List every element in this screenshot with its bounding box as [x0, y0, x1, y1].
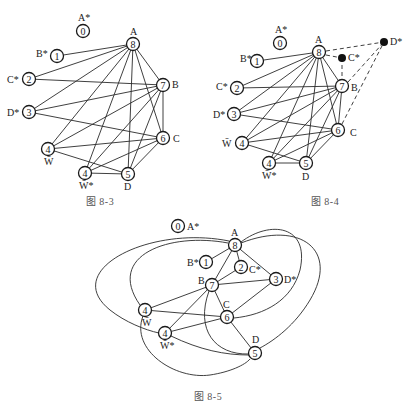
svg-text:C*: C* — [216, 81, 228, 92]
svg-text:1: 1 — [55, 51, 60, 62]
fig-8-3-node-W-bar-star: 4 W̄* — [79, 167, 94, 192]
fig-8-3-node-B-star: 1 B* — [36, 48, 64, 63]
svg-text:B*: B* — [36, 48, 48, 59]
fig-8-3-node-D-star: 3 D* — [7, 106, 36, 119]
svg-text:4: 4 — [163, 328, 168, 339]
figure-8-4: 0 A* 1 B* 2 C* 3 D* 8 A 7 B — [213, 24, 402, 207]
svg-text:0: 0 — [81, 26, 86, 37]
svg-text:6: 6 — [225, 312, 230, 323]
svg-text:B*: B* — [187, 257, 199, 268]
fig-8-4-point-D-star-black: D* — [380, 36, 402, 47]
svg-text:W̄: W̄ — [44, 156, 54, 167]
fig-8-3-node-C: 6 C — [157, 132, 181, 145]
figure-8-3: 0 A* 1 B* 2 C* 3 D* 8 A 7 B — [7, 12, 180, 207]
svg-text:4: 4 — [143, 305, 148, 316]
svg-text:6: 6 — [161, 133, 166, 144]
fig-8-4-node-W-bar-star: 4 W̄* — [262, 157, 276, 182]
svg-text:B: B — [172, 79, 179, 90]
svg-text:D: D — [124, 181, 131, 192]
svg-text:3: 3 — [27, 107, 32, 118]
graph-figures-canvas: 0 A* 1 B* 2 C* 3 D* 8 A 7 B — [0, 0, 411, 410]
svg-text:A: A — [231, 227, 239, 238]
svg-text:W̄*: W̄* — [79, 180, 93, 191]
fig-8-3-caption: 图 8-3 — [86, 196, 114, 207]
svg-text:C: C — [223, 299, 230, 310]
svg-text:A*: A* — [275, 24, 287, 35]
svg-text:0: 0 — [278, 38, 283, 49]
svg-text:2: 2 — [27, 74, 32, 85]
fig-8-4-node-B-star: 1 B* — [240, 53, 264, 68]
svg-text:B: B — [351, 82, 358, 93]
fig-8-5-edges — [96, 229, 321, 375]
svg-text:1: 1 — [204, 257, 209, 268]
fig-8-4-edges — [234, 52, 342, 163]
svg-text:A*: A* — [187, 221, 199, 232]
svg-text:A*: A* — [78, 12, 90, 23]
svg-text:C*: C* — [348, 52, 360, 63]
svg-text:C*: C* — [249, 264, 261, 275]
fig-8-4-caption: 图 8-4 — [311, 196, 339, 207]
fig-8-4-node-D: 5 D — [300, 157, 313, 183]
svg-text:8: 8 — [131, 39, 136, 50]
fig-8-5-node-B-star: 1 B* — [187, 256, 213, 269]
svg-text:5: 5 — [126, 169, 131, 180]
svg-text:W̄*: W̄* — [160, 340, 174, 351]
fig-8-3-node-D: 5 D — [122, 168, 135, 193]
svg-text:C: C — [350, 127, 357, 138]
fig-8-4-node-D-star: 3 D* — [213, 108, 241, 121]
svg-text:7: 7 — [161, 80, 166, 91]
fig-8-4-node-A-star: 0 A* — [274, 24, 288, 50]
svg-text:W̄: W̄ — [142, 317, 152, 328]
svg-text:0: 0 — [176, 221, 181, 232]
svg-text:7: 7 — [210, 280, 215, 291]
svg-text:4: 4 — [83, 168, 88, 179]
svg-text:D: D — [302, 171, 309, 182]
svg-text:C*: C* — [7, 74, 19, 85]
svg-text:W̄: W̄ — [222, 138, 232, 149]
svg-text:4: 4 — [46, 144, 51, 155]
svg-text:2: 2 — [239, 262, 244, 273]
fig-8-3-node-B: 7 B — [157, 79, 180, 92]
svg-text:5: 5 — [253, 348, 258, 359]
svg-text:1: 1 — [255, 56, 260, 67]
svg-text:B: B — [198, 275, 205, 286]
fig-8-4-point-C-star-black: C* — [338, 52, 360, 63]
fig-8-5-node-A-star: 0 A* — [172, 220, 200, 233]
fig-8-4-node-W-bar: 4 W̄ — [222, 137, 249, 150]
svg-text:3: 3 — [232, 109, 237, 120]
fig-8-5-node-D-star: 3 D* — [270, 273, 297, 286]
svg-text:2: 2 — [235, 83, 240, 94]
fig-8-3-node-A: 8 A — [127, 26, 140, 51]
svg-text:C: C — [173, 133, 180, 144]
figure-8-5: 0 A* 8 A 1 B* 2 C* 7 B 3 D* — [96, 220, 321, 403]
fig-8-4-node-C-star: 2 C* — [216, 81, 244, 95]
fig-8-5-node-A: 8 A — [229, 227, 242, 252]
svg-text:D*: D* — [284, 274, 296, 285]
fig-8-5-node-C: 6 C — [221, 299, 234, 324]
svg-text:A: A — [130, 26, 138, 37]
svg-text:D*: D* — [7, 107, 19, 118]
svg-text:8: 8 — [233, 240, 238, 251]
svg-text:3: 3 — [274, 274, 279, 285]
fig-8-5-node-W-bar-star: 4 W̄* — [159, 327, 175, 352]
svg-text:5: 5 — [304, 158, 309, 169]
svg-text:W̄*: W̄* — [262, 170, 276, 181]
fig-8-3-node-W-bar: 4 W̄ — [42, 143, 55, 168]
svg-text:D*: D* — [213, 109, 225, 120]
svg-text:4: 4 — [240, 138, 245, 149]
svg-text:D: D — [252, 334, 259, 345]
svg-text:8: 8 — [317, 47, 322, 58]
svg-text:4: 4 — [267, 158, 272, 169]
svg-text:D*: D* — [390, 36, 402, 47]
fig-8-3-node-A-star: 0 A* — [77, 12, 91, 38]
fig-8-4-node-A: 8 A — [313, 34, 326, 59]
svg-text:6: 6 — [336, 125, 341, 136]
fig-8-5-caption: 图 8-5 — [194, 391, 222, 402]
svg-text:B*: B* — [240, 53, 252, 64]
fig-8-4-node-B: 7 B — [336, 80, 359, 94]
svg-text:A: A — [315, 34, 323, 45]
fig-8-4-node-C: 6 C — [332, 124, 358, 139]
fig-8-3-node-C-star: 2 C* — [7, 73, 36, 86]
svg-text:7: 7 — [340, 81, 345, 92]
